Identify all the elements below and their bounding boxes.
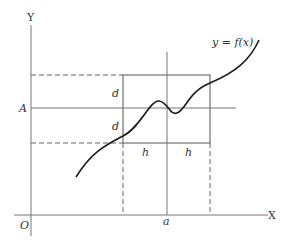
A-label: A bbox=[18, 102, 27, 115]
curve-label: y = f(x) bbox=[211, 36, 253, 49]
x-axis-label: X bbox=[268, 209, 276, 222]
d-upper-label: d bbox=[112, 87, 119, 100]
origin-label: O bbox=[20, 219, 29, 232]
a-label: a bbox=[163, 215, 170, 228]
h-right-label: h bbox=[185, 146, 192, 159]
h-left-label: h bbox=[142, 146, 149, 159]
diagram-canvas: Y X O A a d d h h y = f(x) bbox=[0, 0, 288, 242]
y-axis-label: Y bbox=[26, 11, 35, 24]
d-lower-label: d bbox=[112, 120, 119, 133]
